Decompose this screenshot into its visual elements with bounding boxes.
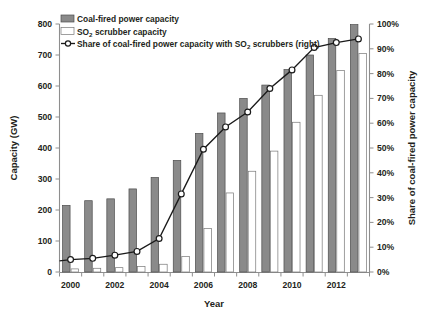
legend-marker-coal-icon xyxy=(61,15,74,22)
y2-axis-title: Share of coal-fired power capacity xyxy=(406,70,417,225)
y-tick-label: 600 xyxy=(38,81,53,91)
legend-label-share: Share of coal-fired power capacity with … xyxy=(77,39,320,50)
share-data-point xyxy=(223,124,229,130)
x-tick-label: 2000 xyxy=(61,280,80,290)
y-axis-title: Capacity (GW) xyxy=(8,116,19,181)
share-data-point xyxy=(68,257,74,263)
share-data-point xyxy=(178,191,184,197)
y-tick-label: 800 xyxy=(38,19,53,29)
y-tick-label: 500 xyxy=(38,112,53,122)
x-axis-title: Year xyxy=(204,298,224,309)
bar-coal-capacity xyxy=(218,113,226,272)
x-tick-label: 2004 xyxy=(150,280,169,290)
bar-coal-capacity xyxy=(173,160,181,272)
y2-tick-label: 80% xyxy=(377,69,395,79)
bar-scrubber-capacity xyxy=(160,264,168,272)
x-tick-label: 2008 xyxy=(238,280,257,290)
y2-tick-label: 50% xyxy=(377,143,395,153)
y-tick-label: 300 xyxy=(38,174,53,184)
bar-scrubber-capacity xyxy=(204,229,212,272)
bar-coal-capacity xyxy=(129,189,137,272)
bar-coal-capacity xyxy=(306,55,314,272)
bar-coal-capacity xyxy=(151,177,159,272)
y2-tick-label: 30% xyxy=(377,193,395,203)
share-data-point xyxy=(90,255,96,261)
bar-scrubber-capacity xyxy=(138,266,146,272)
y-tick-label: 0 xyxy=(47,267,52,277)
bar-scrubber-capacity xyxy=(248,171,256,272)
y2-tick-label: 70% xyxy=(377,93,395,103)
bar-coal-capacity xyxy=(240,98,248,272)
bar-scrubber-capacity xyxy=(293,122,301,272)
bar-scrubber-capacity xyxy=(337,71,345,273)
bar-scrubber-capacity xyxy=(115,268,123,272)
share-data-point xyxy=(333,40,339,46)
bar-coal-capacity xyxy=(195,133,203,272)
y2-tick-label: 90% xyxy=(377,44,395,54)
bar-scrubber-capacity xyxy=(270,151,278,272)
share-data-point xyxy=(112,252,118,258)
bar-coal-capacity xyxy=(262,85,270,272)
bar-scrubber-capacity xyxy=(93,268,101,272)
bar-scrubber-capacity xyxy=(71,269,79,272)
y-tick-label: 200 xyxy=(38,205,53,215)
share-data-point xyxy=(289,67,295,73)
y2-tick-label: 0% xyxy=(377,267,390,277)
bar-coal-capacity xyxy=(350,25,358,272)
y2-tick-label: 60% xyxy=(377,118,395,128)
share-data-point xyxy=(267,86,273,92)
bar-coal-capacity xyxy=(328,39,336,272)
share-data-point xyxy=(134,249,140,255)
y2-tick-label: 20% xyxy=(377,217,395,227)
y2-tick-label: 10% xyxy=(377,242,395,252)
y-tick-label: 700 xyxy=(38,50,53,60)
legend-label-coal: Coal-fired power capacity xyxy=(77,14,179,24)
share-data-point xyxy=(356,36,362,42)
x-tick-label: 2010 xyxy=(282,280,301,290)
y-tick-label: 400 xyxy=(38,143,53,153)
bar-scrubber-capacity xyxy=(226,193,234,272)
bar-scrubber-capacity xyxy=(359,53,367,272)
bar-coal-capacity xyxy=(284,70,292,272)
share-data-point xyxy=(245,109,251,115)
y2-tick-label: 40% xyxy=(377,168,395,178)
x-tick-label: 2002 xyxy=(105,280,124,290)
y2-tick-label: 100% xyxy=(377,19,399,29)
y-tick-label: 100 xyxy=(38,236,53,246)
share-data-point xyxy=(156,236,162,242)
bar-scrubber-capacity xyxy=(182,257,190,273)
x-tick-label: 2012 xyxy=(327,280,346,290)
legend-marker-scrubber-icon xyxy=(61,28,74,35)
bar-scrubber-capacity xyxy=(315,95,323,272)
share-data-point xyxy=(201,146,207,152)
bar-coal-capacity xyxy=(107,199,115,272)
chart-canvas: 0100200300400500600700800 0%10%20%30%40%… xyxy=(0,0,428,316)
x-tick-label: 2006 xyxy=(194,280,213,290)
chart-figure: 0100200300400500600700800 0%10%20%30%40%… xyxy=(0,0,428,316)
